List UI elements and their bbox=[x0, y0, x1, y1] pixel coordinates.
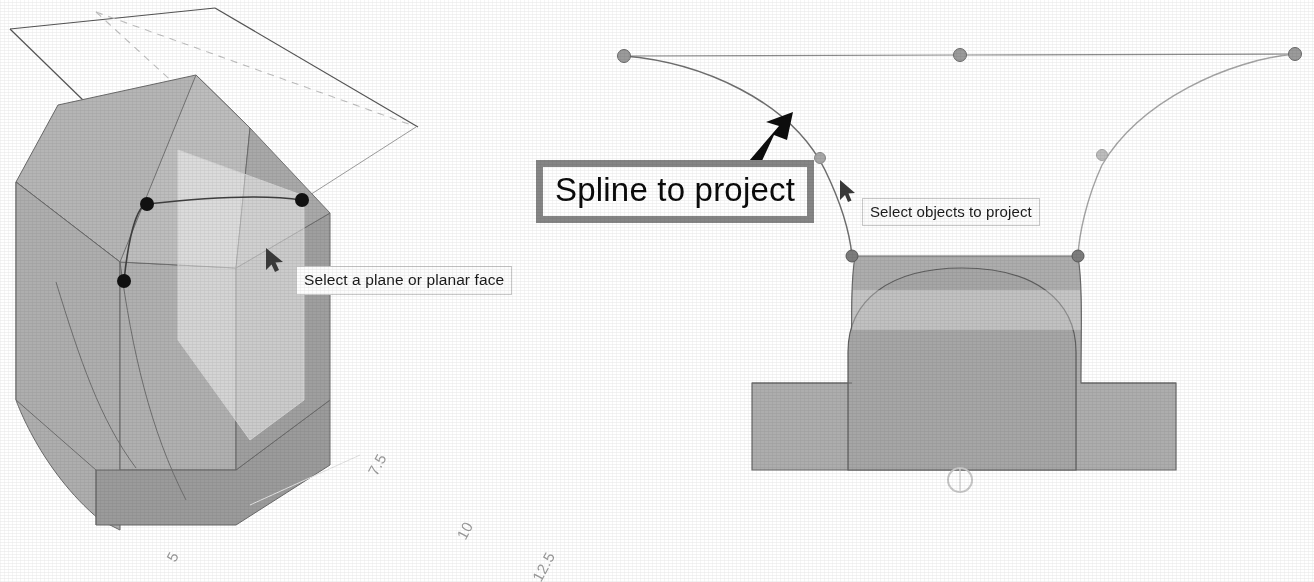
callout-spline-to-project: Spline to project bbox=[536, 160, 814, 223]
cad-viewport[interactable]: Select a plane or planar face Select obj… bbox=[0, 0, 1314, 582]
control-point[interactable] bbox=[140, 197, 154, 211]
plane-edge-right bbox=[215, 8, 418, 127]
control-point[interactable] bbox=[618, 50, 631, 63]
surface-highlight-band bbox=[750, 290, 1180, 330]
control-point[interactable] bbox=[954, 49, 967, 62]
arrow-cursor bbox=[840, 180, 855, 202]
control-point[interactable] bbox=[846, 250, 858, 262]
control-point[interactable] bbox=[815, 153, 826, 164]
control-point[interactable] bbox=[295, 193, 309, 207]
projected-spline-right-branch bbox=[1078, 54, 1295, 256]
control-point[interactable] bbox=[1289, 48, 1302, 61]
projected-spline[interactable] bbox=[618, 48, 1302, 263]
right-view-group bbox=[618, 48, 1302, 493]
control-point[interactable] bbox=[117, 274, 131, 288]
bracket-solid-front-view[interactable] bbox=[750, 256, 1180, 470]
control-point[interactable] bbox=[1097, 150, 1108, 161]
cad-scene-graphics bbox=[0, 0, 1314, 582]
hint-select-objects: Select objects to project bbox=[862, 198, 1040, 226]
plane-edge-top bbox=[10, 8, 215, 29]
control-point[interactable] bbox=[1072, 250, 1084, 262]
plane-hidden-edge-c bbox=[302, 127, 416, 200]
hint-select-plane: Select a plane or planar face bbox=[296, 266, 512, 295]
